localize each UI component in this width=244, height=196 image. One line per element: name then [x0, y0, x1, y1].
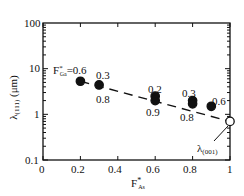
y-tick-label: 10 [29, 63, 40, 74]
point-label: 0.3 [182, 88, 196, 99]
x-tick-label: 0.8 [183, 164, 197, 175]
x-tick-label: 0.6 [146, 164, 160, 175]
x-tick-label: 0.4 [108, 164, 122, 175]
y-tick-label: 0.1 [25, 155, 39, 166]
annotation-pointer-line [214, 126, 228, 141]
point-label: 0.6 [212, 96, 226, 107]
lambda001-annotation: λ(001) [197, 143, 218, 154]
x-tick-label: 1 [227, 164, 233, 175]
point-label: 0.3 [96, 70, 110, 81]
y-axis-title: λ(111) (μm) [8, 67, 19, 129]
x-tick-label: 0 [39, 164, 45, 175]
point-label: 0.2 [148, 84, 162, 95]
y-axis-ticks [43, 25, 230, 160]
open-data-point [226, 117, 234, 125]
filled-data-point [76, 77, 84, 85]
filled-data-point [151, 96, 159, 104]
x-tick-label: 0.2 [71, 164, 85, 175]
x-axis-title: F*As [131, 178, 145, 189]
x-axis-ticks [43, 23, 230, 160]
y-tick-label: 100 [24, 18, 41, 29]
fga-annotation: F*Ga=0.6 [53, 65, 87, 76]
point-label: 0.9 [146, 107, 160, 118]
y-tick-label: 1 [34, 109, 40, 120]
plot-svg [0, 0, 244, 196]
filled-data-point [95, 81, 103, 89]
point-label: 0.8 [180, 112, 194, 123]
point-label: 0.8 [96, 94, 110, 105]
plot-frame [43, 23, 230, 160]
chart-area: 100 10 1 0.1 0 0.2 0.4 0.6 0.8 1 F*As λ(… [0, 0, 244, 196]
filled-data-point [188, 100, 196, 108]
